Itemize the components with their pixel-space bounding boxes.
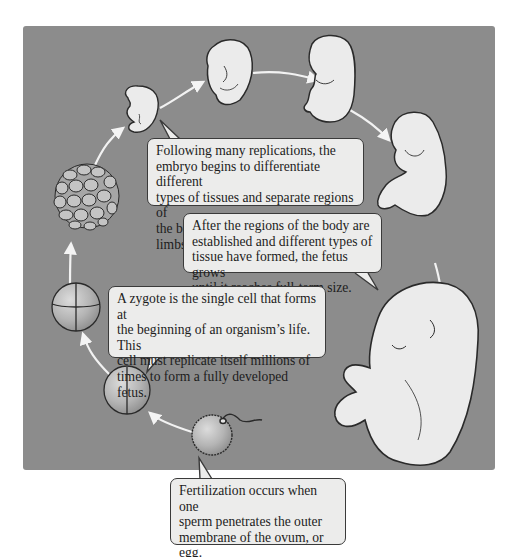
four-cell-stage: [52, 283, 100, 331]
arrow-two-cell-to-four-cell: [83, 334, 110, 375]
arrow-embryo-to-limbs: [253, 72, 318, 80]
arrow-limbs-to-fetus: [350, 110, 389, 140]
arrow-early-embryo-to-embryo: [160, 82, 203, 108]
pointer-fertilization: [199, 458, 212, 479]
callout-fertilization: Fertilization occurs when one sperm pene…: [170, 478, 346, 545]
pointer-differentiation: [160, 120, 180, 139]
full-term-fetus: [335, 282, 478, 465]
callout-differentiation: Following many replications, the embryo …: [147, 138, 364, 206]
callout-zygote: A zygote is the single cell that forms a…: [108, 286, 326, 358]
arrow-morula-to-early-embryo: [95, 128, 123, 165]
development-cycle-art: [0, 0, 518, 557]
morula: [54, 164, 119, 230]
fertilized-ovum: [192, 414, 262, 455]
callout-fetal-growth: After the regions of the body are establ…: [183, 213, 382, 273]
embryo-curled: [207, 40, 252, 105]
pointer-fetal-growth: [355, 273, 378, 290]
arrow-ovum-to-two-cell: [150, 413, 192, 432]
fetus: [378, 112, 447, 216]
early-embryo: [126, 86, 159, 132]
